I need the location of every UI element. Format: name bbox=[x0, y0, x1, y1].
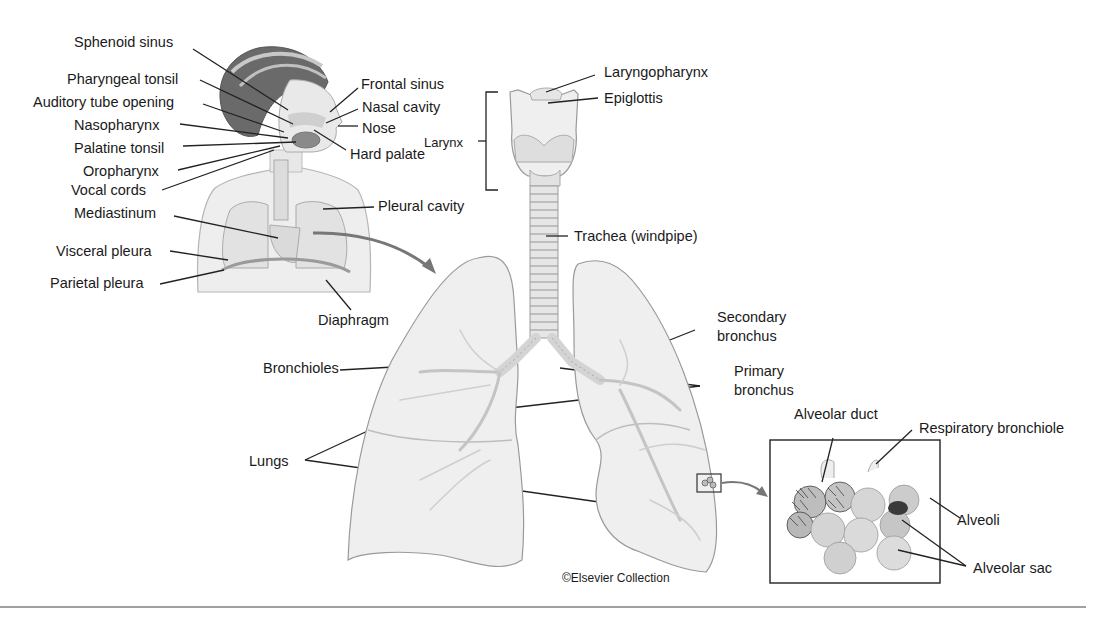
left-labels: Sphenoid sinus Pharyngeal tonsil Auditor… bbox=[33, 34, 178, 291]
label-alveolar-duct: Alveolar duct bbox=[794, 406, 878, 422]
label-primary-bronchus-line2: bronchus bbox=[734, 382, 794, 398]
label-pleural-cavity: Pleural cavity bbox=[378, 198, 465, 214]
label-vocal-cords: Vocal cords bbox=[71, 182, 146, 198]
label-sphenoid-sinus: Sphenoid sinus bbox=[74, 34, 173, 50]
label-nasopharynx: Nasopharynx bbox=[74, 117, 160, 133]
label-epiglottis: Epiglottis bbox=[604, 90, 663, 106]
label-visceral-pleura: Visceral pleura bbox=[56, 243, 153, 259]
label-alveolar-sac: Alveolar sac bbox=[973, 560, 1052, 576]
label-mediastinum: Mediastinum bbox=[74, 205, 156, 221]
label-nasal-cavity: Nasal cavity bbox=[362, 99, 441, 115]
label-oropharynx: Oropharynx bbox=[83, 163, 160, 179]
label-trachea: Trachea (windpipe) bbox=[574, 228, 698, 244]
label-primary-bronchus-line1: Primary bbox=[734, 363, 785, 379]
label-larynx: Larynx bbox=[424, 135, 464, 150]
label-pharyngeal-tonsil: Pharyngeal tonsil bbox=[67, 71, 178, 87]
label-auditory-tube-opening: Auditory tube opening bbox=[33, 94, 174, 110]
label-secondary-bronchus-line1: Secondary bbox=[717, 309, 787, 325]
torso-illustration bbox=[198, 47, 371, 292]
figure-credit: ©Elsevier Collection bbox=[562, 571, 670, 585]
label-lungs: Lungs bbox=[249, 453, 289, 469]
label-hard-palate: Hard palate bbox=[350, 146, 425, 162]
label-palatine-tonsil: Palatine tonsil bbox=[74, 140, 164, 156]
label-respiratory-bronchiole: Respiratory bronchiole bbox=[919, 420, 1064, 436]
label-laryngopharynx: Laryngopharynx bbox=[604, 64, 709, 80]
label-frontal-sinus: Frontal sinus bbox=[361, 76, 444, 92]
alveoli-inset bbox=[770, 440, 940, 583]
label-secondary-bronchus-line2: bronchus bbox=[717, 328, 777, 344]
label-parietal-pleura: Parietal pleura bbox=[50, 275, 144, 291]
label-alveoli: Alveoli bbox=[957, 512, 1000, 528]
respiratory-diagram: Sphenoid sinus Pharyngeal tonsil Auditor… bbox=[0, 0, 1113, 623]
label-diaphragm: Diaphragm bbox=[318, 312, 389, 328]
label-nose: Nose bbox=[362, 120, 396, 136]
label-bronchioles: Bronchioles bbox=[263, 360, 339, 376]
